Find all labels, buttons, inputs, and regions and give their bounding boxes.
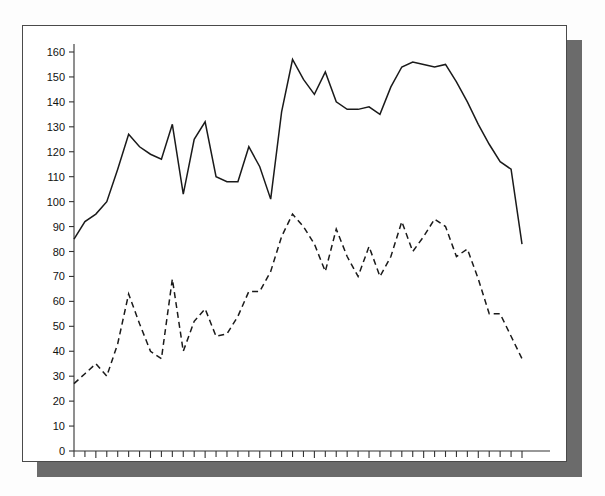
y-tick-label: 150 <box>47 71 65 83</box>
y-tick-label: 140 <box>47 96 65 108</box>
y-tick-label: 40 <box>53 345 65 357</box>
series-solid-series <box>74 59 522 244</box>
y-tick-label: 90 <box>53 221 65 233</box>
y-tick-label: 80 <box>53 246 65 258</box>
y-tick-label: 120 <box>47 146 65 158</box>
line-chart: 0102030405060708090100110120130140150160… <box>23 26 566 461</box>
y-tick-label: 30 <box>53 370 65 382</box>
y-tick-label: 70 <box>53 270 65 282</box>
series-dashed-series <box>74 214 522 384</box>
y-tick-label: 130 <box>47 121 65 133</box>
y-tick-label: 60 <box>53 295 65 307</box>
y-tick-label: 50 <box>53 320 65 332</box>
y-tick-label: 110 <box>47 171 65 183</box>
figure-card: 0102030405060708090100110120130140150160… <box>22 25 567 462</box>
y-tick-label: 0 <box>59 445 65 457</box>
chart-page: 0102030405060708090100110120130140150160… <box>0 0 605 496</box>
y-tick-label: 160 <box>47 46 65 58</box>
y-tick-label: 10 <box>53 420 65 432</box>
y-tick-label: 20 <box>53 395 65 407</box>
y-tick-label: 100 <box>47 196 65 208</box>
